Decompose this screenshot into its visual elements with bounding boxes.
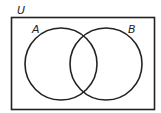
set-b-label: B [128, 23, 136, 36]
set-a-circle [25, 28, 97, 100]
set-b-circle [70, 28, 142, 100]
set-a-label: A [31, 23, 40, 36]
venn-diagram: U A B [0, 0, 161, 113]
universe-label: U [17, 4, 25, 17]
